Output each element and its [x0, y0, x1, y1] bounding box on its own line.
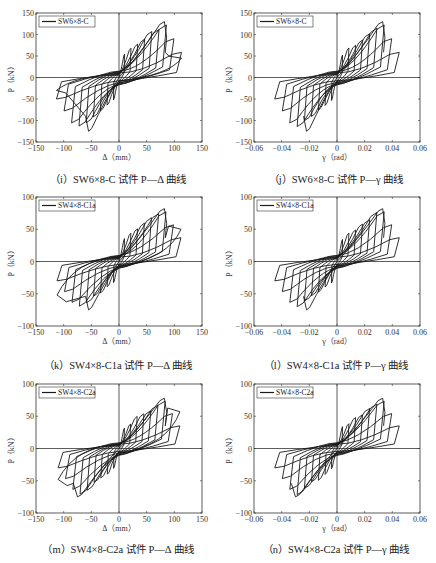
chart-svg: −0.06−0.04−0.0200.020.040.06100500−50−10… — [0, 0, 436, 563]
caption-n: （n）SW4×8-C2a 试件 P—γ 曲线 — [236, 541, 436, 556]
caption-i: （i）SW6×8-C 试件 P—Δ 曲线 — [18, 171, 218, 186]
x-tick-label: 0.04 — [385, 515, 399, 524]
x-tick-label: 0.06 — [413, 515, 427, 524]
caption-l: （l）SW4×8-C1a 试件 P—γ 曲线 — [236, 357, 436, 372]
y-axis-label: P（kN） — [225, 433, 234, 463]
x-tick-label: 0.02 — [358, 515, 372, 524]
x-tick-label: 0 — [335, 515, 339, 524]
x-tick-label: −0.02 — [300, 515, 319, 524]
x-axis-label: γ（rad） — [321, 524, 352, 533]
y-tick-label: 50 — [244, 412, 252, 421]
y-tick-label: −100 — [235, 509, 252, 518]
y-tick-label: 100 — [240, 380, 252, 389]
legend: SW4×8-C2a — [257, 387, 314, 398]
legend-label: SW4×8-C2a — [276, 388, 314, 397]
x-tick-label: −0.04 — [272, 515, 291, 524]
caption-k: （k）SW4×8-C1a 试件 P—Δ 曲线 — [18, 357, 218, 372]
y-tick-label: −50 — [239, 477, 252, 486]
caption-m: （m）SW4×8-C2a 试件 P—Δ 曲线 — [18, 541, 218, 556]
y-tick-label: 0 — [248, 445, 252, 454]
caption-j: （j）SW6×8-C 试件 P—γ 曲线 — [236, 171, 436, 186]
